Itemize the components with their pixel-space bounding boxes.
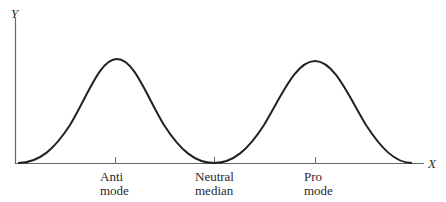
tick-label-neutral-line2: median [195, 184, 234, 198]
y-axis-label: Y [11, 6, 18, 22]
tick-label-neutral-line1: Neutral [195, 170, 234, 184]
tick-label-anti: Anti mode [100, 170, 129, 198]
x-axis-label: X [428, 156, 436, 172]
tick-label-neutral: Neutral median [195, 170, 234, 198]
tick-label-anti-line1: Anti [100, 170, 129, 184]
tick-label-pro: Pro mode [304, 170, 333, 198]
tick-label-pro-line2: mode [304, 184, 333, 198]
bimodal-curve [18, 59, 412, 163]
tick-label-anti-line2: mode [100, 184, 129, 198]
tick-label-pro-line1: Pro [304, 170, 333, 184]
